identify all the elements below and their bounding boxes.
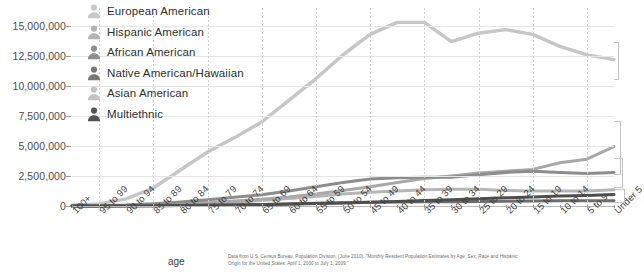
legend-item-label: Native American/Hawaiian <box>107 67 244 79</box>
legend-item-label: Hispanic American <box>107 26 204 38</box>
y-axis-tick-label: 10,000,000 <box>0 80 66 92</box>
person-icon <box>86 65 102 81</box>
person-icon <box>86 106 102 122</box>
y-axis-tick-label: 2,500,000 <box>0 170 66 182</box>
chart-legend: European AmericanHispanic AmericanAfrica… <box>86 1 244 124</box>
legend-item[interactable]: Asian American <box>86 83 244 104</box>
series-endpoint-bracket <box>614 189 625 203</box>
series-endpoint-bracket <box>614 158 623 188</box>
legend-item-label: African American <box>107 46 196 58</box>
gridline-vertical <box>587 8 588 206</box>
legend-item[interactable]: Native American/Hawaiian <box>86 63 244 84</box>
x-axis-title: age <box>168 256 185 267</box>
series-endpoint-bracket <box>614 42 619 80</box>
y-axis-tick <box>66 146 71 147</box>
y-axis-tick <box>66 116 71 117</box>
y-axis-tick-label: 12,500,000 <box>0 50 66 62</box>
y-axis-tick <box>66 86 71 87</box>
y-axis-tick-label: 5,000,000 <box>0 140 66 152</box>
y-axis-tick-label: 7,500,000 <box>0 110 66 122</box>
gridline-vertical <box>262 8 263 206</box>
source-note: Data from U.S. Census Bureau, Population… <box>228 253 528 268</box>
person-icon <box>86 24 102 40</box>
legend-item[interactable]: African American <box>86 42 244 63</box>
y-axis-tick <box>66 56 71 57</box>
legend-item-label: Multiethnic <box>107 108 163 120</box>
y-axis-tick-label: 0 <box>0 200 66 212</box>
y-axis-tick <box>66 26 71 27</box>
person-icon <box>86 44 102 60</box>
gridline-vertical <box>316 8 317 206</box>
gridline-vertical <box>533 8 534 206</box>
legend-item[interactable]: Multiethnic <box>86 104 244 125</box>
legend-item-label: Asian American <box>107 87 188 99</box>
legend-item-label: European American <box>107 5 210 17</box>
gridline-vertical <box>424 8 425 206</box>
person-icon <box>86 3 102 19</box>
gridline-vertical <box>479 8 480 206</box>
y-axis-tick <box>66 176 71 177</box>
person-icon <box>86 85 102 101</box>
y-axis-tick-label: 15,000,000 <box>0 20 66 32</box>
legend-item[interactable]: European American <box>86 1 244 22</box>
gridline-vertical <box>370 8 371 206</box>
legend-item[interactable]: Hispanic American <box>86 22 244 43</box>
